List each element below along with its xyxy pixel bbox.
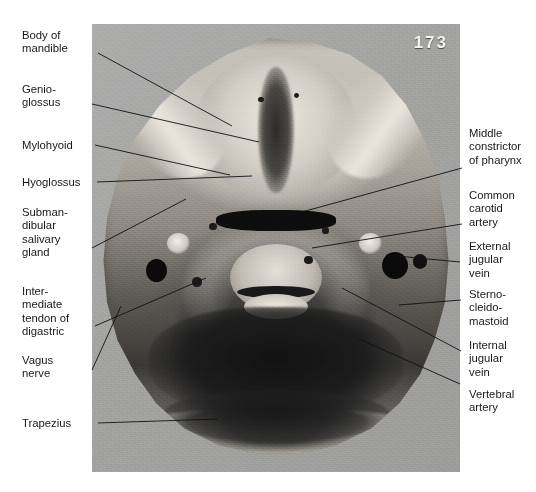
anatomy-plate-panel: 173: [92, 24, 460, 472]
label-intermediate-tendon: Inter- mediate tendon of digastric: [22, 285, 69, 339]
label-body-of-mandible: Body of mandible: [22, 29, 68, 56]
plate-page-number: 173: [414, 33, 448, 53]
label-trapezius: Trapezius: [22, 417, 71, 430]
label-genioglossus: Genio- glossus: [22, 83, 60, 110]
film-grain-overlay: [92, 24, 460, 472]
label-common-carotid: Common carotid artery: [469, 189, 515, 229]
label-mylohyoid: Mylohyoid: [22, 139, 73, 152]
label-submandibular-gland: Subman- dibular salivary gland: [22, 206, 68, 260]
label-external-jugular: External jugular vein: [469, 240, 510, 280]
label-middle-constrictor: Middle constrictor of pharynx: [469, 127, 522, 167]
label-internal-jugular: Internal jugular vein: [469, 339, 507, 379]
specimen-image: [92, 24, 460, 472]
label-vagus-nerve: Vagus nerve: [22, 354, 53, 381]
label-sternocleidomastoid: Sterno- cleido- mastoid: [469, 288, 509, 328]
label-hyoglossus: Hyoglossus: [22, 176, 80, 189]
label-vertebral-artery: Vertebral artery: [469, 388, 514, 415]
